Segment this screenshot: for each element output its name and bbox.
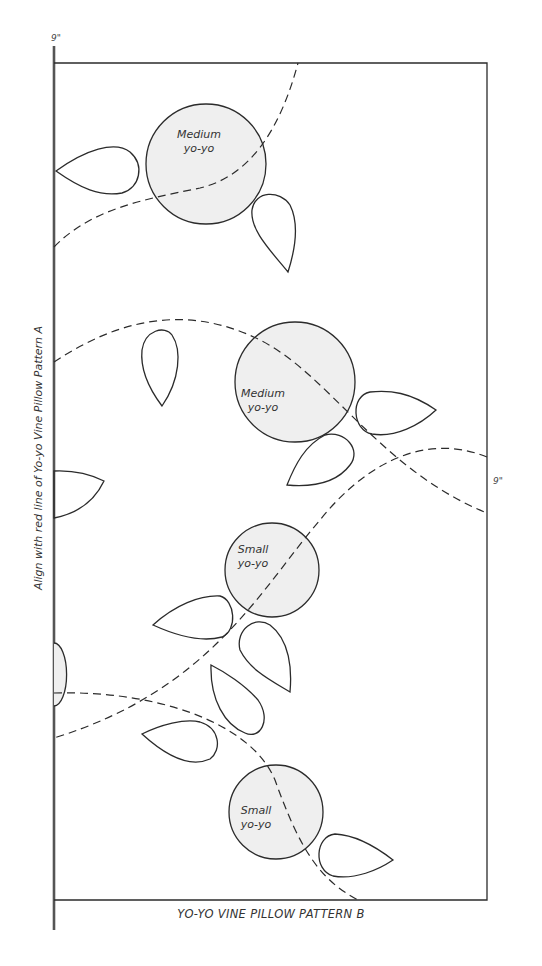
yoyo-medium-2 xyxy=(235,322,355,442)
yoyo-size-text: Small xyxy=(221,804,291,818)
leaf xyxy=(211,665,264,734)
leaf xyxy=(56,147,139,194)
align-instruction: Align with red line of Yo-yo Vine Pillow… xyxy=(32,326,45,590)
yoyo-partial-left xyxy=(54,643,67,706)
leaf xyxy=(356,391,436,434)
leaf xyxy=(252,194,296,272)
yoyo-medium-1 xyxy=(146,104,266,224)
yoyo-type-text: yo-yo xyxy=(221,818,291,832)
dimension-right-label: 9" xyxy=(493,476,503,486)
yoyo-type-text: yo-yo xyxy=(218,557,288,571)
leaf xyxy=(319,834,393,877)
leaf xyxy=(142,721,217,762)
yoyo-type-text: yo-yo xyxy=(228,401,298,415)
yoyo-size-text: Small xyxy=(218,543,288,557)
yoyo-label-medium-1: Medium yo-yo xyxy=(164,128,234,156)
yoyo-label-small-1: Small yo-yo xyxy=(218,543,288,571)
leaf xyxy=(142,330,178,406)
yoyo-size-text: Medium xyxy=(164,128,234,142)
yoyo-label-small-2: Small yo-yo xyxy=(221,804,291,832)
leaf xyxy=(54,471,104,518)
yoyo-label-medium-2: Medium yo-yo xyxy=(228,387,298,415)
yoyo-size-text: Medium xyxy=(228,387,298,401)
pattern-title: YO-YO VINE PILLOW PATTERN B xyxy=(0,907,542,921)
yoyo-type-text: yo-yo xyxy=(164,142,234,156)
leaf xyxy=(153,596,233,639)
leaf xyxy=(239,622,290,692)
dimension-top-label: 9" xyxy=(51,33,61,43)
